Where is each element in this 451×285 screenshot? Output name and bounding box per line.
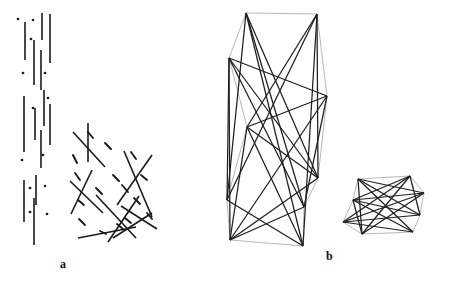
- point-dot: [21, 159, 24, 162]
- point-dot: [29, 211, 32, 214]
- point-dot: [32, 107, 35, 110]
- figure-container: a b: [0, 0, 451, 285]
- point-dot: [17, 18, 20, 21]
- point-dot: [42, 154, 45, 157]
- point-dot: [32, 19, 35, 22]
- panel-label-a: a: [60, 258, 66, 270]
- figure-background: [0, 0, 451, 285]
- point-dot: [30, 38, 33, 41]
- point-dot: [46, 213, 49, 216]
- figure-canvas: [0, 0, 451, 285]
- point-dot: [44, 72, 47, 75]
- point-dot: [44, 185, 47, 188]
- point-dot: [47, 97, 50, 100]
- point-dot: [29, 187, 32, 190]
- point-dot: [22, 72, 25, 75]
- panel-label-b: b: [326, 250, 333, 262]
